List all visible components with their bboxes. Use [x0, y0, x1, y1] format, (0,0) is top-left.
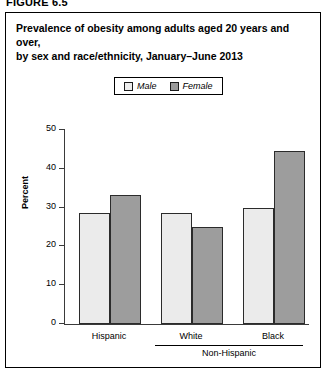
x-axis-label-white: White [151, 331, 231, 341]
legend-item-male: Male [124, 81, 157, 91]
bar-hispanic-female [110, 195, 141, 324]
non-hispanic-bracket [155, 345, 303, 346]
legend-swatch-female-icon [170, 82, 179, 91]
bar-white-female [192, 227, 223, 324]
legend-item-female: Female [170, 81, 213, 91]
y-axis-tick-label-10: 10 [46, 278, 56, 288]
legend-label-male: Male [137, 81, 157, 91]
y-axis-tick-label-20: 20 [46, 239, 56, 249]
chart-legend: Male Female [114, 77, 223, 95]
y-axis-tick-label-0: 0 [51, 317, 56, 327]
figure-number-label: FIGURE 6.5 [6, 0, 68, 8]
bar-group-black [243, 130, 305, 324]
non-hispanic-group-label: Non-Hispanic [179, 348, 279, 358]
bar-group-hispanic [79, 130, 141, 324]
bar-hispanic-male [79, 213, 110, 324]
bar-black-male [243, 208, 274, 324]
y-axis-tick-label-50: 50 [46, 123, 56, 133]
legend-swatch-male-icon [124, 82, 133, 91]
y-axis-tick-label-30: 30 [46, 201, 56, 211]
x-axis-label-black: Black [233, 331, 313, 341]
bar-black-female [274, 151, 305, 324]
bar-series-container [65, 130, 309, 324]
x-axis-label-hispanic: Hispanic [69, 331, 149, 341]
figure-frame: Prevalence of obesity among adults aged … [5, 12, 321, 368]
chart-title: Prevalence of obesity among adults aged … [16, 21, 312, 63]
chart-title-line-2: by sex and race/ethnicity, January–June … [16, 49, 312, 63]
legend-label-female: Female [183, 81, 213, 91]
bar-group-white [161, 130, 223, 324]
plot-area: 01020304050 [64, 130, 309, 325]
bar-white-male [161, 213, 192, 324]
y-axis-title: Percent [20, 176, 30, 209]
chart-title-line-1: Prevalence of obesity among adults aged … [16, 22, 289, 48]
y-axis-tick-label-40: 40 [46, 162, 56, 172]
